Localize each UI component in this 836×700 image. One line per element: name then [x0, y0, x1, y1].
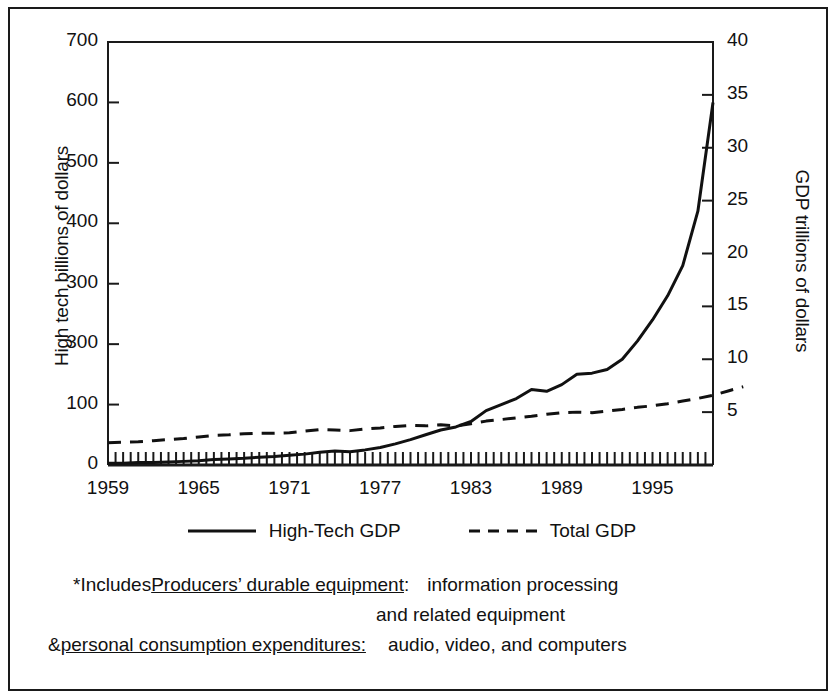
y-right-tick-5: 5	[727, 399, 779, 421]
x-minor-ticks	[108, 452, 713, 465]
y-left-tick-400-4: 400	[46, 210, 98, 232]
legend-swatch-solid	[186, 524, 258, 538]
axis-frame	[108, 42, 713, 465]
footnote-2-value: and related equipment	[376, 600, 565, 630]
y-left-tick-300-2: 300	[46, 331, 98, 353]
x-tick-1983: 1983	[431, 477, 511, 499]
footnote-line-3: & personal consumption expenditures: aud…	[20, 630, 820, 660]
legend-item-1: High-Tech GDP	[186, 520, 401, 542]
legend-label-2: Total GDP	[550, 520, 637, 542]
legend-label-1: High-Tech GDP	[269, 520, 401, 542]
footnote-1-lead: *Includes	[73, 570, 151, 600]
footnote-line-2: and related equipment	[20, 600, 820, 630]
y-axis-right-title: GDP trillions of dollars	[791, 111, 813, 411]
legend-swatch-dashed	[467, 524, 539, 538]
footnote-1-tail: :	[404, 570, 409, 600]
footnote-3-underlined: personal consumption expenditures:	[61, 630, 366, 660]
y-left-tick-300-3: 300	[46, 271, 98, 293]
y-right-tick-40: 40	[727, 29, 779, 51]
chart-legend: High-Tech GDPTotal GDP	[108, 520, 714, 542]
y-right-tick-35: 35	[727, 82, 779, 104]
y-right-tick-15: 15	[727, 293, 779, 315]
footnote-line-1: *Includes Producers’ durable equipment :…	[20, 570, 820, 600]
y-left-tick-600-6: 600	[46, 89, 98, 111]
x-tick-1965: 1965	[159, 477, 239, 499]
y-left-tick-700-7: 700	[46, 29, 98, 51]
axis-major-ticks	[108, 42, 713, 412]
chart-figure: High tech billions of dollars GDP trilli…	[0, 0, 836, 700]
y-left-tick-500-5: 500	[46, 150, 98, 172]
y-right-tick-25: 25	[727, 188, 779, 210]
footnote-1-underlined: Producers’ durable equipment	[151, 570, 404, 600]
x-tick-1977: 1977	[340, 477, 420, 499]
footnote-3-value: audio, video, and computers	[388, 630, 627, 660]
y-left-tick-100-1: 100	[46, 392, 98, 414]
y-left-tick-0-0: 0	[46, 452, 98, 474]
y-right-tick-30: 30	[727, 135, 779, 157]
x-tick-1959: 1959	[68, 477, 148, 499]
x-tick-1989: 1989	[522, 477, 602, 499]
y-right-tick-20: 20	[727, 241, 779, 263]
x-tick-1971: 1971	[250, 477, 330, 499]
y-right-tick-10: 10	[727, 346, 779, 368]
data-series	[108, 102, 743, 463]
footnote-block: *Includes Producers’ durable equipment :…	[20, 570, 820, 660]
legend-item-2: Total GDP	[467, 520, 637, 542]
x-tick-1995: 1995	[613, 477, 693, 499]
footnote-3-lead: &	[48, 630, 61, 660]
footnote-1-value: information processing	[427, 570, 618, 600]
